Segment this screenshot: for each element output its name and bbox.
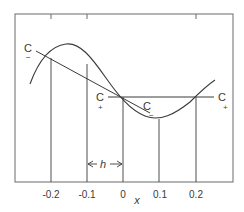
svg-text:C: C [96,91,104,103]
plot-frame [15,14,233,182]
top-ticks [51,14,196,19]
svg-text:0.2: 0.2 [189,189,203,200]
svg-text:0: 0 [120,189,126,200]
svg-text:−: − [26,53,31,62]
finite-difference-diagram: C − C + C − C + h -0.2 -0.1 0 0.1 0.2 x [0,0,244,212]
label-c-plus-right: C + [218,91,228,112]
label-c-plus-left: C + [96,91,104,112]
function-curve [30,44,215,118]
label-c-minus-right: C − [143,100,154,120]
svg-text:C: C [218,91,226,103]
svg-text:-0.1: -0.1 [78,189,96,200]
svg-text:h: h [100,158,106,170]
svg-text:-0.2: -0.2 [42,189,60,200]
svg-text:+: + [223,103,228,112]
label-c-minus-left: C − [24,42,32,62]
svg-text:0.1: 0.1 [153,189,167,200]
x-tick-labels: -0.2 -0.1 0 0.1 0.2 [42,189,203,200]
x-axis-label: x [133,194,140,206]
svg-text:−: − [149,111,154,120]
svg-text:+: + [98,103,103,112]
interval-h: h [88,158,122,170]
sample-lines [51,58,196,182]
